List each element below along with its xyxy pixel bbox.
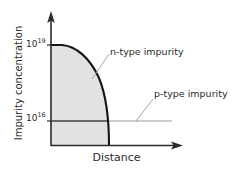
tick-mantissa-high: 10 xyxy=(26,39,37,49)
p-type-leader-line xyxy=(136,99,153,121)
n-type-impurity-label: n-type impurity xyxy=(110,47,184,57)
n-type-leader-line xyxy=(92,54,109,79)
tick-mantissa-low: 10 xyxy=(26,113,37,123)
x-axis-title: Distance xyxy=(51,152,182,163)
y-axis-title: Impurity concentration xyxy=(14,18,24,148)
p-type-impurity-label: p-type impurity xyxy=(154,89,228,99)
tick-exponent-high: 19 xyxy=(37,37,45,45)
y-tick-label-10e19: 1019 xyxy=(26,40,46,49)
tick-exponent-low: 16 xyxy=(37,111,45,119)
y-tick-label-10e16: 1016 xyxy=(26,114,46,123)
impurity-concentration-figure: Impurity concentration Distance 1019 101… xyxy=(0,0,234,170)
plot-canvas xyxy=(0,0,234,170)
n-type-shaded-region xyxy=(51,45,109,145)
